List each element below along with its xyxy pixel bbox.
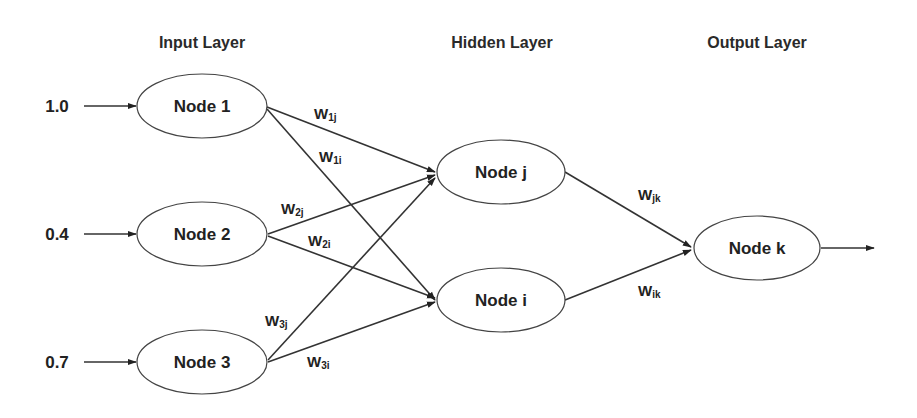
neural-network-diagram: Input Layer Hidden Layer Output Layer 1.… <box>0 0 917 418</box>
node-k: Node k <box>694 216 820 280</box>
edge-i-k <box>565 250 691 300</box>
node-1-label: Node 1 <box>174 97 231 116</box>
input-value-1: 1.0 <box>45 97 69 116</box>
node-1: Node 1 <box>137 74 267 138</box>
node-i: Node i <box>437 268 565 332</box>
node-k-label: Node k <box>729 239 786 258</box>
weight-w2j: W2j <box>281 200 304 218</box>
weight-w2i: W2i <box>308 232 331 250</box>
weight-w3j: W3j <box>265 312 288 330</box>
weight-wjk: Wjk <box>638 186 661 204</box>
node-i-label: Node i <box>475 291 527 310</box>
input-value-3: 0.7 <box>45 353 69 372</box>
input-layer-title: Input Layer <box>159 34 245 51</box>
weight-w1j: W1j <box>314 105 337 123</box>
hidden-layer-title: Hidden Layer <box>451 34 552 51</box>
node-3: Node 3 <box>137 330 267 394</box>
input-value-2: 0.4 <box>45 225 69 244</box>
node-3-label: Node 3 <box>174 353 231 372</box>
node-2-label: Node 2 <box>174 225 231 244</box>
edge-j-k <box>565 172 691 247</box>
weight-w3i: W3i <box>307 353 330 371</box>
edge-1-j <box>267 107 435 172</box>
weight-wik: Wik <box>638 282 661 300</box>
edge-2-i <box>268 236 435 298</box>
node-j: Node j <box>437 140 565 204</box>
node-j-label: Node j <box>475 163 527 182</box>
weight-w1i: W1i <box>319 148 342 166</box>
node-2: Node 2 <box>137 202 267 266</box>
output-layer-title: Output Layer <box>707 34 807 51</box>
